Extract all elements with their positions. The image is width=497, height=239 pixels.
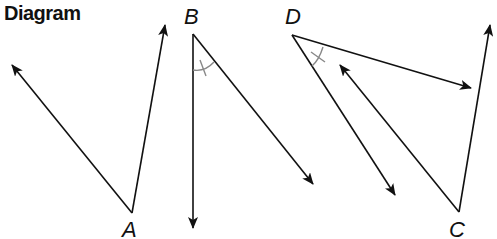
- ray-c-up: [459, 25, 490, 212]
- angle-a: A: [12, 25, 165, 239]
- ray-d-right: [292, 35, 471, 88]
- vertex-label-a: A: [120, 217, 137, 239]
- ray-b-diagonal: [193, 34, 313, 184]
- vertex-label-c: C: [449, 217, 465, 239]
- congruence-tick-d: [311, 52, 325, 62]
- ray-a-left: [12, 65, 132, 213]
- vertex-label-d: D: [285, 4, 301, 29]
- vertex-label-b: B: [184, 4, 199, 29]
- ray-a-right: [132, 25, 165, 213]
- angle-diagram: A B D C: [0, 0, 497, 239]
- angle-d: D: [285, 4, 471, 195]
- angle-c: C: [340, 25, 490, 239]
